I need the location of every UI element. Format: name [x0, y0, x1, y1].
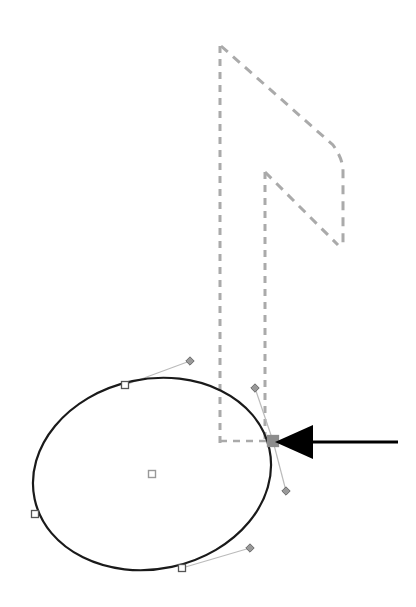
- handle-bottom-out[interactable]: [246, 544, 254, 552]
- lower-flag-guide: [265, 172, 338, 245]
- upper-flag-guide: [221, 46, 343, 245]
- handle-top-out[interactable]: [186, 357, 194, 365]
- callout-arrow-head: [275, 425, 313, 459]
- anchor-right[interactable]: [268, 436, 279, 447]
- handle-right-in[interactable]: [251, 384, 259, 392]
- vector-editing-canvas[interactable]: [0, 0, 416, 607]
- anchor-bottom[interactable]: [179, 565, 186, 572]
- note-stem-and-flags-guide: [220, 46, 343, 443]
- drawing-surface[interactable]: [0, 0, 416, 607]
- handle-right-out[interactable]: [282, 487, 290, 495]
- control-handle-lines: [125, 361, 286, 568]
- control-handle-knobs[interactable]: [186, 357, 290, 552]
- anchor-left[interactable]: [32, 511, 39, 518]
- handle-right-out-line: [273, 441, 286, 491]
- callout-arrow: [275, 425, 398, 459]
- path-center-marker[interactable]: [149, 471, 156, 478]
- anchor-top[interactable]: [122, 382, 129, 389]
